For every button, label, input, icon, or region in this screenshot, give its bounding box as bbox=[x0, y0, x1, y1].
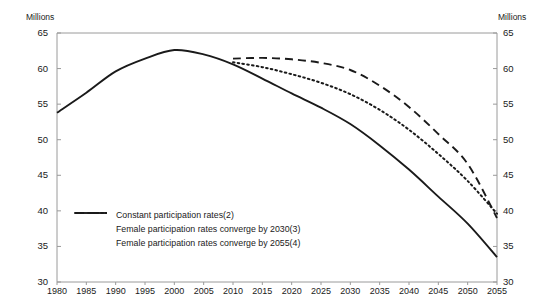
x-axis-label: 2045 bbox=[422, 286, 454, 296]
legend-item-2[interactable]: Female participation rates converge by 2… bbox=[74, 236, 300, 250]
y-axis-label-right: 40 bbox=[503, 205, 527, 216]
y-axis-label-left: 45 bbox=[26, 169, 48, 180]
x-axis-label: 2015 bbox=[246, 286, 278, 296]
y-axis-label-left: 65 bbox=[26, 27, 48, 38]
x-axis-label: 2025 bbox=[305, 286, 337, 296]
x-axis-label: 1985 bbox=[70, 286, 102, 296]
legend-key-dotted-icon bbox=[74, 238, 108, 248]
y-axis-label-left: 40 bbox=[26, 205, 48, 216]
y-axis-label-right: 45 bbox=[503, 169, 527, 180]
x-axis-label: 2000 bbox=[158, 286, 190, 296]
legend-label-0: Constant participation rates(2) bbox=[116, 210, 234, 220]
series-line-1 bbox=[233, 58, 497, 218]
x-axis-label: 2030 bbox=[334, 286, 366, 296]
plot-area bbox=[0, 0, 544, 305]
y-axis-label-right: 65 bbox=[503, 27, 527, 38]
x-axis-label: 2040 bbox=[393, 286, 425, 296]
x-axis-label: 1980 bbox=[41, 286, 73, 296]
x-axis-label: 2055 bbox=[481, 286, 513, 296]
x-axis-label: 2020 bbox=[276, 286, 308, 296]
x-axis-label: 2010 bbox=[217, 286, 249, 296]
x-axis-label: 1990 bbox=[100, 286, 132, 296]
x-axis-label: 2035 bbox=[364, 286, 396, 296]
legend-item-1[interactable]: Female participation rates converge by 2… bbox=[74, 222, 300, 236]
legend-key-dashed-icon bbox=[74, 224, 108, 234]
chart-container: Millions Millions 6565606055555050454540… bbox=[0, 0, 544, 305]
x-axis-label: 1995 bbox=[129, 286, 161, 296]
y-axis-label-right: 35 bbox=[503, 240, 527, 251]
x-axis-label: 2050 bbox=[452, 286, 484, 296]
y-axis-label-right: 55 bbox=[503, 98, 527, 109]
y-axis-label-left: 50 bbox=[26, 134, 48, 145]
y-axis-label-left: 60 bbox=[26, 63, 48, 74]
y-axis-label-right: 60 bbox=[503, 63, 527, 74]
chart-legend: Constant participation rates(2)Female pa… bbox=[74, 208, 300, 250]
y-axis-label-right: 50 bbox=[503, 134, 527, 145]
y-axis-label-left: 35 bbox=[26, 240, 48, 251]
series-line-2 bbox=[233, 62, 497, 214]
x-axis-label: 2005 bbox=[188, 286, 220, 296]
legend-label-1: Female participation rates converge by 2… bbox=[116, 224, 300, 234]
y-axis-label-left: 55 bbox=[26, 98, 48, 109]
legend-label-2: Female participation rates converge by 2… bbox=[116, 238, 300, 248]
